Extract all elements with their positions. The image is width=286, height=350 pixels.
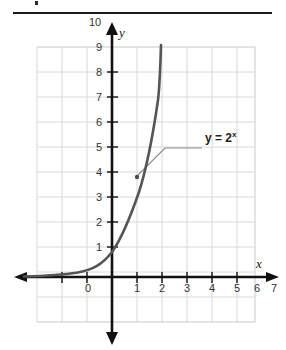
y-tick-label-5: 5 xyxy=(91,141,107,153)
x-tick-label-5: 5 xyxy=(229,282,245,294)
y-tick-label-2: 2 xyxy=(91,216,107,228)
y-tick-label-4: 4 xyxy=(91,166,107,178)
x-tick-label-4: 4 xyxy=(204,282,220,294)
coordinate-plane xyxy=(0,0,286,350)
y-tick-label-6: 6 xyxy=(91,116,107,128)
x-tick-label-0: 0 xyxy=(80,282,96,294)
x-tick-label-7: 7 xyxy=(266,282,282,294)
equation-base: y = 2 xyxy=(205,131,232,145)
y-axis-label: y xyxy=(119,25,125,41)
x-tick-label-2: 2 xyxy=(154,282,170,294)
x-tick-label-1: 1 xyxy=(129,282,145,294)
x-tick-label-3: 3 xyxy=(179,282,195,294)
exponential-function-figure: y x 0 1 2 3 4 5 6 7 1 2 3 4 5 6 7 8 9 10… xyxy=(0,0,286,350)
y-tick-label-9: 9 xyxy=(91,41,107,53)
x-axis-label: x xyxy=(256,256,262,272)
grid-lines xyxy=(37,47,255,322)
y-tick-label-3: 3 xyxy=(91,191,107,203)
y-tick-label-1: 1 xyxy=(91,241,107,253)
x-tick-label-6: 6 xyxy=(249,282,265,294)
y-tick-label-8: 8 xyxy=(91,66,107,78)
curve-point-marker xyxy=(135,175,139,179)
equation-annotation: y = 2x xyxy=(205,130,236,145)
equation-exponent: x xyxy=(232,130,236,139)
y-tick-label-10: 10 xyxy=(84,16,106,28)
y-tick-label-7: 7 xyxy=(91,91,107,103)
